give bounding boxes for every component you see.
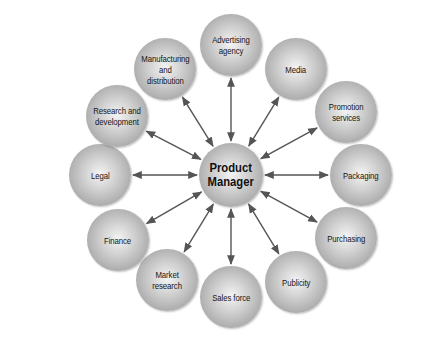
node-label: Purchasing xyxy=(327,233,365,244)
node-sales-force: Sales force xyxy=(200,266,262,328)
arrow-purchasing xyxy=(261,191,317,222)
arrow-media xyxy=(249,97,279,146)
node-finance: Finance xyxy=(87,209,149,271)
node-label: Legal xyxy=(91,170,110,181)
node-label: Advertising agency xyxy=(212,34,250,56)
node-media: Media xyxy=(265,38,327,100)
node-product-manager: Product Manager xyxy=(199,143,263,207)
arrow-publicity xyxy=(249,204,279,254)
node-label: Sales force xyxy=(212,292,250,303)
node-label: Promotion services xyxy=(329,101,364,123)
node-label: Market research xyxy=(152,269,182,291)
node-research: Research and development xyxy=(86,85,148,147)
node-label: Finance xyxy=(104,235,131,246)
node-advertising: Advertising agency xyxy=(200,14,262,76)
node-label: Manufacturing and distribution xyxy=(141,53,189,86)
node-label: Research and development xyxy=(93,105,141,127)
node-label: Packaging xyxy=(343,170,379,181)
node-label: Publicity xyxy=(282,277,310,288)
node-label: Media xyxy=(286,64,307,75)
node-purchasing: Purchasing xyxy=(315,207,377,269)
center-label: Product Manager xyxy=(208,161,254,189)
node-publicity: Publicity xyxy=(265,251,327,313)
arrow-manufacturing xyxy=(182,97,213,146)
node-manufacturing: Manufacturing and distribution xyxy=(134,38,196,100)
node-legal: Legal xyxy=(69,144,131,206)
product-manager-diagram: Advertising agencyMediaPromotion service… xyxy=(0,0,422,350)
node-market-research: Market research xyxy=(136,249,198,311)
arrow-finance xyxy=(147,192,202,224)
node-promotion: Promotion services xyxy=(315,81,377,143)
node-packaging: Packaging xyxy=(330,144,392,206)
arrow-research xyxy=(146,131,200,159)
arrow-promotion xyxy=(261,128,317,159)
arrow-market-research xyxy=(184,204,213,252)
